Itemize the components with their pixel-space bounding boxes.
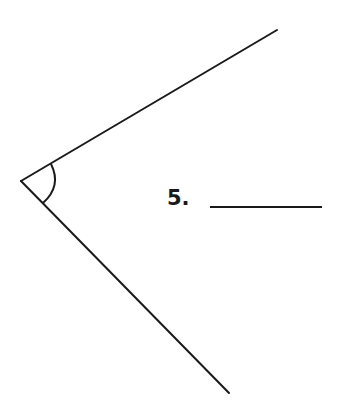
angle-arc-marker: [43, 164, 55, 203]
problem-number: 5.: [167, 186, 190, 210]
answer-blank[interactable]: [210, 206, 322, 208]
lower-ray: [21, 181, 229, 393]
upper-ray: [21, 30, 277, 181]
